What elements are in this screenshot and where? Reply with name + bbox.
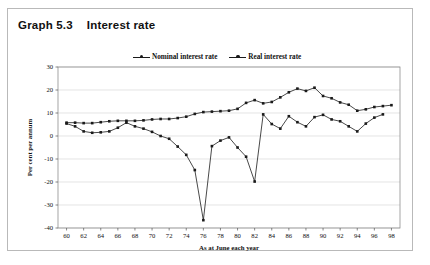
- series-marker: [142, 127, 145, 130]
- series-marker: [313, 86, 316, 89]
- series-marker: [91, 131, 94, 134]
- series-marker: [270, 101, 273, 104]
- series-marker: [262, 113, 265, 116]
- x-axis-tick-label: 96: [371, 232, 378, 239]
- x-axis-tick-label: 62: [80, 232, 87, 239]
- series-marker: [279, 127, 282, 130]
- series-marker: [151, 131, 154, 134]
- series-marker: [305, 90, 308, 93]
- series-marker: [296, 87, 299, 90]
- series-marker: [194, 113, 197, 116]
- chart-svg: 3020100-10-20-30-40Per cent per annum606…: [0, 0, 430, 265]
- series-marker: [176, 117, 179, 120]
- y-axis-tick-label: 0: [50, 132, 54, 139]
- series-marker: [134, 120, 137, 123]
- x-axis-tick-label: 90: [320, 232, 327, 239]
- series-marker: [373, 106, 376, 109]
- series-marker: [108, 120, 111, 123]
- series-marker: [202, 219, 205, 222]
- series-marker: [99, 131, 102, 134]
- series-marker: [194, 169, 197, 172]
- series-marker: [202, 111, 205, 114]
- series-marker: [151, 118, 154, 121]
- series-marker: [245, 155, 248, 158]
- series-marker: [236, 108, 239, 111]
- series-marker: [108, 130, 111, 133]
- y-axis-tick-label: -30: [44, 201, 53, 208]
- series-marker: [288, 115, 291, 118]
- y-axis-tick-label: -20: [44, 178, 53, 185]
- series-marker: [228, 109, 231, 112]
- series-marker: [236, 146, 239, 149]
- series-marker: [288, 91, 291, 94]
- series-marker: [99, 121, 102, 124]
- series-marker: [168, 137, 171, 140]
- series-line-nominal: [67, 88, 392, 123]
- series-marker: [125, 121, 128, 124]
- x-axis-tick-label: 86: [286, 232, 293, 239]
- series-marker: [142, 119, 145, 122]
- series-marker: [356, 130, 359, 133]
- series-marker: [339, 101, 342, 104]
- series-marker: [322, 114, 325, 117]
- plot-border: [58, 67, 400, 228]
- series-marker: [373, 116, 376, 119]
- x-axis-tick-label: 82: [251, 232, 258, 239]
- series-marker: [382, 113, 385, 116]
- x-axis-tick-label: 78: [217, 232, 224, 239]
- x-axis-tick-label: 70: [149, 232, 156, 239]
- series-marker: [168, 118, 171, 121]
- series-marker: [176, 145, 179, 148]
- series-marker: [365, 108, 368, 111]
- series-marker: [356, 109, 359, 112]
- series-marker: [279, 96, 282, 99]
- series-marker: [347, 103, 350, 106]
- series-marker: [245, 102, 248, 105]
- series-line-real: [67, 114, 383, 220]
- series-marker: [117, 120, 120, 123]
- series-marker: [211, 110, 214, 113]
- series-marker: [253, 99, 256, 102]
- series-marker: [270, 123, 273, 126]
- series-marker: [390, 104, 393, 107]
- series-marker: [91, 122, 94, 125]
- series-marker: [382, 105, 385, 108]
- x-axis-tick-label: 98: [388, 232, 395, 239]
- series-marker: [253, 180, 256, 183]
- series-marker: [322, 95, 325, 98]
- x-axis-title: As at June each year: [199, 244, 259, 251]
- series-marker: [339, 120, 342, 123]
- y-axis-tick-label: -10: [44, 155, 53, 162]
- x-axis-tick-label: 74: [183, 232, 190, 239]
- series-marker: [347, 125, 350, 128]
- series-marker: [313, 116, 316, 119]
- series-marker: [228, 136, 231, 139]
- x-axis-tick-label: 64: [97, 232, 104, 239]
- series-marker: [159, 118, 162, 121]
- x-axis-tick-label: 88: [303, 232, 310, 239]
- x-axis-tick-label: 84: [268, 232, 275, 239]
- series-marker: [330, 97, 333, 100]
- series-marker: [211, 145, 214, 148]
- x-axis-tick-label: 72: [166, 232, 173, 239]
- series-marker: [262, 102, 265, 105]
- series-marker: [159, 135, 162, 138]
- x-axis-tick-label: 92: [337, 232, 344, 239]
- series-marker: [74, 125, 77, 128]
- x-axis-tick-label: 94: [354, 232, 361, 239]
- series-marker: [305, 125, 308, 128]
- series-marker: [219, 110, 222, 113]
- x-axis-tick-label: 68: [132, 232, 139, 239]
- series-marker: [219, 139, 222, 142]
- chart-plot-area: 3020100-10-20-30-40Per cent per annum606…: [0, 0, 430, 265]
- y-axis-tick-label: 30: [46, 63, 53, 70]
- y-axis-tick-label: -40: [44, 224, 53, 231]
- x-axis-tick-label: 76: [200, 232, 207, 239]
- series-marker: [134, 125, 137, 128]
- series-marker: [65, 122, 68, 125]
- series-marker: [330, 118, 333, 121]
- y-axis-title: Per cent per annum: [26, 119, 33, 177]
- x-axis-tick-label: 60: [63, 232, 70, 239]
- x-axis-tick-label: 80: [234, 232, 241, 239]
- series-marker: [117, 126, 120, 129]
